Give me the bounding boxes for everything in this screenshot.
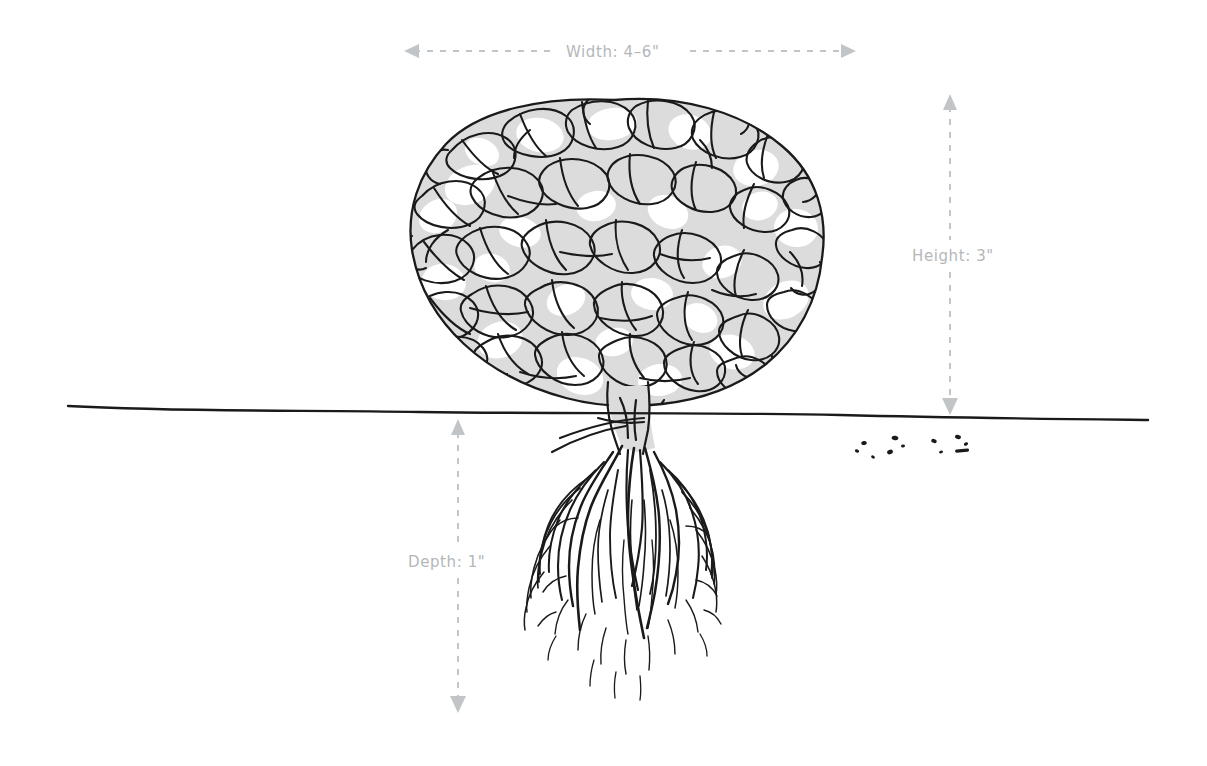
arrow-down-icon xyxy=(942,398,958,415)
dimension-label-height: Height: 3" xyxy=(912,247,994,265)
plant-diagram-svg xyxy=(0,0,1207,766)
diagram-canvas: Width: 4–6" Height: 3" Depth: 1" xyxy=(0,0,1207,766)
root-system xyxy=(524,446,721,700)
arrow-left-icon xyxy=(404,44,419,58)
dimension-label-depth: Depth: 1" xyxy=(408,553,485,571)
arrow-right-icon xyxy=(841,44,856,58)
dimension-label-width: Width: 4–6" xyxy=(566,43,660,61)
arrow-up-icon xyxy=(943,94,957,110)
soil-debris xyxy=(854,434,969,459)
arrow-up-icon xyxy=(451,419,465,435)
canopy-group xyxy=(402,94,828,410)
arrow-down-icon xyxy=(450,696,466,713)
